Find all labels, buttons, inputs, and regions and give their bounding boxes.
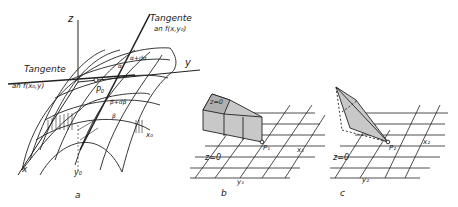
tangent1-sub: an f(x,y₀) [154, 25, 186, 33]
alpha-d-label: α+dα [130, 54, 147, 61]
point-p1: P₁ [263, 144, 270, 152]
panel-c-pyramid [336, 87, 390, 144]
point-p2: P₂ [389, 144, 396, 152]
alpha-label: α [118, 62, 122, 69]
beta-label: β [112, 112, 116, 120]
tangent2-sub: an f(x₀,y) [12, 82, 44, 90]
caption-c: c [340, 188, 345, 198]
axis-z-label: z [67, 13, 74, 24]
top-z0-label: z=0 [209, 98, 223, 106]
tangent2-title: Tangente [24, 64, 66, 74]
tangent1-title: Tangente [150, 13, 192, 23]
x1-label: x₁ [296, 146, 304, 154]
axis-y-label: y [184, 57, 192, 68]
diagram-svg: z y x Tangente an f(x,y₀) Tangente an f(… [0, 0, 458, 207]
plane-z0-label-c: z=0 [332, 153, 349, 162]
caption-b: b [221, 188, 227, 198]
y1-label: y₁ [236, 178, 244, 186]
panel-a-axes [18, 20, 200, 175]
caption-a: a [75, 190, 81, 200]
axis-x-label: x [21, 164, 28, 174]
point-p0: P₀ [96, 86, 105, 95]
x0-label: x₀ [145, 131, 153, 139]
y0-label: y₀ [73, 168, 83, 177]
figure: z y x Tangente an f(x,y₀) Tangente an f(… [0, 0, 458, 207]
plane-z0-label-b: z=0 [204, 153, 221, 162]
y2-label: y₂ [361, 176, 369, 184]
panel-a-surface [8, 14, 176, 175]
x2-label: x₂ [422, 138, 430, 146]
beta-d-label: β+dβ [110, 98, 127, 106]
